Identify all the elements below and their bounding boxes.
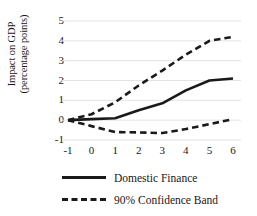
legend-item: 90% Confidence Band (0, 189, 257, 211)
legend-label: Domestic Finance (114, 172, 197, 185)
series-lines (68, 37, 233, 133)
x-axis-tick-labels: -10123456 (0, 144, 257, 160)
x-tick-label: -1 (59, 144, 77, 156)
x-tick-label: 1 (106, 144, 124, 156)
chart-figure: Impact on GDP (percentage points) 543210… (0, 0, 257, 216)
x-tick-label: 3 (153, 144, 171, 156)
legend-label: 90% Confidence Band (114, 194, 218, 207)
series-line-lower-band (68, 119, 233, 133)
chart-legend: Domestic Finance90% Confidence Band (0, 167, 257, 211)
x-tick-label: 0 (83, 144, 101, 156)
dashed-line-swatch-icon (62, 194, 106, 206)
x-tick-label: 4 (177, 144, 195, 156)
x-tick-label: 5 (200, 144, 218, 156)
x-tick-label: 6 (224, 144, 242, 156)
legend-item: Domestic Finance (0, 167, 257, 189)
x-tick-label: 2 (130, 144, 148, 156)
solid-line-swatch-icon (62, 172, 106, 184)
